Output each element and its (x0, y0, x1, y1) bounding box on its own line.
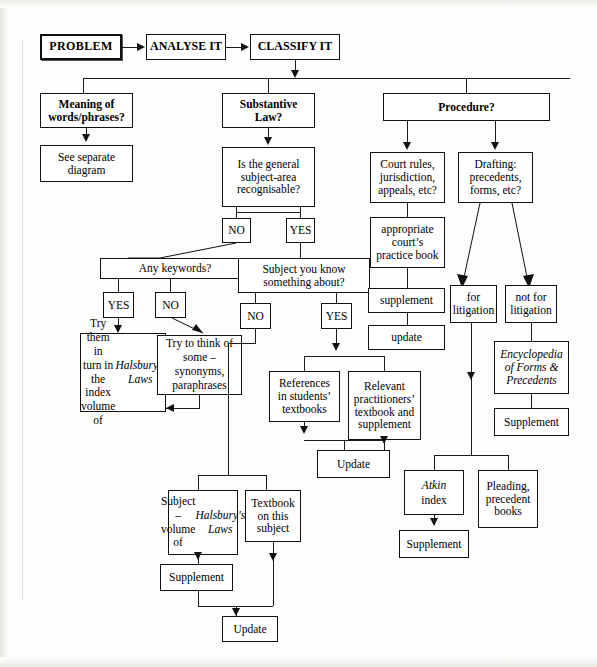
edge-forlit-split (434, 455, 508, 456)
arrow-atkin-down-icon (430, 518, 438, 526)
node-not-for-litigation[interactable]: not for litigation (505, 285, 557, 323)
node-encyclopedia-forms-precedents[interactable]: Encyclopedia of Forms & Precedents (494, 341, 569, 394)
node-atkin-index[interactable]: Atkinindex (404, 470, 464, 515)
node-supplement-atkin[interactable]: Supplement (399, 530, 469, 558)
arrow-forlit-down-icon (467, 372, 475, 380)
edge-drafting-branches (0, 0, 597, 667)
edge-forlit-down (471, 323, 472, 455)
node-for-litigation[interactable]: for litigation (450, 285, 497, 323)
edge-forlit-split-left (434, 455, 435, 470)
edge-notfor-encyclopedia (531, 323, 532, 341)
edge-forlit-split-right (508, 455, 509, 470)
atkin-title: Atkin (422, 479, 446, 491)
edge-encyclopedia-supplement (531, 394, 532, 408)
node-supplement-encyclopedia[interactable]: Supplement (494, 408, 569, 436)
atkin-index-label: index (421, 494, 447, 506)
node-pleading-precedent-books[interactable]: Pleading, precedent books (478, 470, 538, 528)
flowchart-canvas: PROBLEM ANALYSE IT CLASSIFY IT Meaning o… (0, 0, 597, 667)
